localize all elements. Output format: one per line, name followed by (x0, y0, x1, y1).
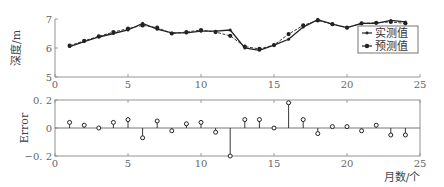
y-tick-label: 0 (46, 123, 52, 134)
chart-figure: 0510152025567 深度/m 实测值 预测值 0510152025−0.… (0, 0, 444, 187)
predicted-point (82, 39, 86, 43)
x-tick-label: 10 (195, 79, 208, 90)
legend-marker-predicted-icon (365, 44, 369, 48)
predicted-point (272, 43, 276, 47)
bottom-axes: 0510152025−0. 200. 2 (25, 95, 427, 169)
error-marker (345, 125, 349, 129)
actual-line (70, 20, 406, 51)
predicted-point (184, 30, 188, 34)
predicted-point (243, 44, 247, 48)
error-marker (374, 123, 378, 127)
error-marker (214, 130, 218, 134)
bottom-y-axis-title: Error (18, 112, 31, 143)
predicted-point (374, 21, 378, 25)
y-tick-label: 6 (46, 43, 52, 54)
x-tick-label: 20 (341, 158, 354, 169)
error-marker (184, 122, 188, 126)
x-tick-label: 10 (195, 158, 208, 169)
error-marker (243, 118, 247, 122)
x-tick-label: 25 (414, 158, 427, 169)
error-marker (68, 120, 72, 124)
actual-point (229, 29, 232, 32)
error-marker (82, 123, 86, 127)
x-tick-label: 15 (268, 79, 281, 90)
predicted-point (345, 26, 349, 30)
error-marker (330, 125, 334, 129)
x-tick-label: 20 (341, 79, 354, 90)
depth-line-plot: 0510152025567 深度/m 实测值 预测值 (9, 14, 426, 90)
error-marker (170, 129, 174, 133)
y-tick-label: 5 (46, 72, 52, 83)
bottom-x-axis-title: 月数/个 (384, 171, 421, 184)
predicted-point (111, 30, 115, 34)
error-marker (228, 154, 232, 158)
predicted-point (141, 23, 145, 27)
x-tick-label: 5 (125, 79, 131, 90)
y-tick-label: 0. 2 (33, 95, 52, 106)
predicted-point (155, 26, 159, 30)
predicted-point (287, 32, 291, 36)
error-marker (301, 118, 305, 122)
predicted-point (360, 21, 364, 25)
predicted-point (126, 26, 130, 30)
legend-label-actual: 实测值 (375, 26, 408, 40)
x-tick-label: 25 (414, 79, 427, 90)
predicted-point (214, 30, 218, 34)
error-marker (287, 101, 291, 105)
predicted-point (403, 21, 407, 25)
x-tick-label: 5 (125, 158, 131, 169)
legend-marker-actual-icon (366, 32, 369, 35)
predicted-point (199, 28, 203, 32)
legend: 实测值 预测值 (358, 26, 418, 53)
x-tick-label: 0 (52, 158, 58, 169)
predicted-point (68, 44, 72, 48)
error-marker (316, 132, 320, 136)
error-marker (199, 120, 203, 124)
actual-point (287, 38, 290, 41)
legend-label-predicted: 预测值 (375, 40, 408, 53)
error-marker (257, 118, 261, 122)
error-marker (126, 118, 130, 122)
predicted-point (257, 47, 261, 51)
error-marker (141, 136, 145, 140)
predicted-point (301, 23, 305, 27)
error-marker (272, 126, 276, 130)
predicted-point (170, 31, 174, 35)
error-marker (389, 133, 393, 137)
predicted-point (330, 22, 334, 26)
error-marker (360, 129, 364, 133)
chart-canvas: 0510152025567 深度/m 实测值 预测值 0510152025−0.… (0, 0, 444, 187)
error-marker (111, 120, 115, 124)
bottom-series (55, 101, 420, 158)
top-y-axis-title: 深度/m (9, 29, 23, 66)
predicted-point (228, 34, 232, 38)
y-tick-label: −0. 2 (25, 151, 52, 162)
error-marker (155, 119, 159, 123)
x-tick-label: 0 (52, 79, 58, 90)
error-stem-plot: 0510152025−0. 200. 2 Error 月数/个 (18, 95, 426, 184)
error-marker (403, 133, 407, 137)
y-tick-label: 7 (46, 14, 52, 25)
error-marker (97, 126, 101, 130)
predicted-point (97, 34, 101, 38)
predicted-point (316, 18, 320, 22)
predicted-point (389, 20, 393, 24)
top-series (68, 18, 408, 52)
x-tick-label: 15 (268, 158, 281, 169)
